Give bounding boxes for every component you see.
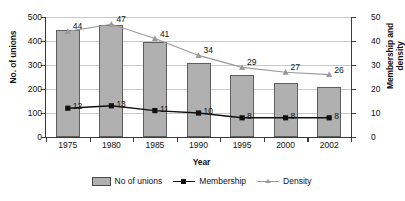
chart-legend: No of unions Membership Density [0, 176, 403, 186]
y-axis-left-tick-label: 400 [18, 36, 42, 46]
y-axis-left-tick-label: 200 [18, 84, 42, 94]
legend-label-membership: Membership [199, 176, 246, 186]
y-axis-left-title: No. of unions [8, 18, 18, 96]
y-axis-right-tick [352, 137, 356, 138]
membership-value-label: 8 [334, 111, 339, 121]
y-axis-left-tick [41, 137, 45, 138]
y-axis-left-tick-label: 300 [18, 60, 42, 70]
y-axis-left-tick [41, 17, 45, 18]
bar-swatch-icon [92, 177, 111, 186]
y-axis-left-tick [41, 65, 45, 66]
y-axis-left-tick [41, 41, 45, 42]
membership-value-label: 8 [247, 111, 252, 121]
density-value-label: 29 [247, 57, 256, 67]
legend-label-density: Density [283, 176, 311, 186]
membership-marker [152, 108, 157, 113]
density-marker [108, 21, 114, 27]
density-value-label: 47 [116, 14, 125, 24]
membership-marker [65, 106, 70, 111]
legend-item-no-of-unions: No of unions [92, 176, 163, 186]
legend-item-membership: Membership [173, 176, 246, 186]
y-axis-left-ticks: 0100200300400500 [18, 0, 42, 201]
density-line-icon [257, 177, 279, 186]
membership-value-label: 12 [73, 101, 82, 111]
density-value-label: 27 [291, 62, 300, 72]
line-series-layer [46, 17, 351, 138]
legend-item-density: Density [257, 176, 311, 186]
density-value-label: 34 [204, 45, 213, 55]
membership-value-label: 8 [291, 111, 296, 121]
y-axis-right-tick [352, 17, 356, 18]
x-axis-tick-label: 1995 [225, 140, 259, 150]
y-axis-left-tick [41, 89, 45, 90]
y-axis-right-line [351, 17, 352, 138]
membership-marker [283, 115, 288, 120]
x-axis-ticks: 1975198019851990199520002002 [0, 140, 403, 154]
membership-line-icon [173, 177, 195, 186]
y-axis-left-line [45, 17, 46, 138]
membership-marker [109, 103, 114, 108]
x-axis-line [45, 137, 352, 138]
y-axis-right-tick [352, 89, 356, 90]
x-axis-tick-label: 1975 [51, 140, 85, 150]
x-axis-tick-label: 1990 [182, 140, 216, 150]
density-value-label: 44 [73, 21, 82, 31]
membership-value-label: 11 [160, 104, 169, 114]
membership-value-label: 10 [204, 106, 213, 116]
y-axis-left-tick-label: 500 [18, 12, 42, 22]
y-axis-left-tick [41, 113, 45, 114]
y-axis-right-title-line1: Membership and [385, 23, 395, 89]
plot-area: 4447413429272612131110888 [46, 17, 351, 137]
membership-marker [240, 115, 245, 120]
y-axis-right-title: Membership and density [385, 13, 405, 99]
x-axis-title: Year [0, 157, 403, 167]
y-axis-right-tick [352, 113, 356, 114]
y-axis-left-tick-label: 100 [18, 108, 42, 118]
y-axis-right-tick [352, 65, 356, 66]
x-axis-tick-label: 2002 [312, 140, 346, 150]
y-axis-right-tick-label: 10 [371, 108, 395, 118]
x-axis-tick-label: 2000 [269, 140, 303, 150]
density-value-label: 41 [160, 29, 169, 39]
x-axis-tick-label: 1980 [94, 140, 128, 150]
membership-marker [196, 110, 201, 115]
y-axis-right-title-line2: density [395, 41, 405, 70]
membership-value-label: 13 [116, 99, 125, 109]
membership-marker [327, 115, 332, 120]
density-value-label: 26 [334, 65, 343, 75]
legend-label-no-of-unions: No of unions [115, 176, 163, 186]
x-axis-tick-label: 1985 [138, 140, 172, 150]
y-axis-right-tick [352, 41, 356, 42]
